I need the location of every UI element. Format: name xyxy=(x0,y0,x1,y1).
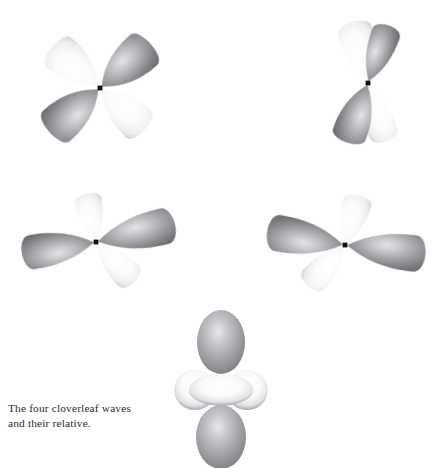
figure-caption: The four cloverleaf waves and their rela… xyxy=(8,401,198,431)
dz2-relative-lobe-bottom xyxy=(196,405,246,468)
figure-stage: g y % xyxy=(0,0,442,468)
cloverleaf-mid-left-nucleus xyxy=(94,240,99,245)
torus-band xyxy=(189,374,254,405)
caption-line-2: and their relative. xyxy=(8,416,198,431)
cloverleaf-top-right-nucleus xyxy=(366,81,371,86)
dz2-relative-lobe-top xyxy=(197,310,245,374)
cloverleaf-mid-right-nucleus xyxy=(343,243,348,248)
caption-line-1: The four cloverleaf waves xyxy=(8,401,198,416)
orbital-illustration xyxy=(0,0,442,468)
cloverleaf-top-left-nucleus xyxy=(98,86,103,91)
